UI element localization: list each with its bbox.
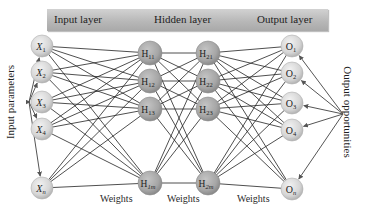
input-node-x2: X2 <box>31 61 53 83</box>
hidden-node-h2m: H2m <box>196 171 220 195</box>
input-layer-label: Input layer <box>54 13 102 25</box>
weight-edge <box>42 183 150 188</box>
input-node-xn: Xn <box>31 177 53 199</box>
output-node-o1: O1 <box>281 35 303 57</box>
input-node-x3: X3 <box>31 91 53 113</box>
weight-edge <box>42 72 150 183</box>
weight-edge <box>42 46 150 81</box>
output-node-o4: O4 <box>281 119 303 141</box>
hidden-layer-label: Hidden layer <box>154 13 211 25</box>
input-parameters-label: Input parameters <box>4 65 16 139</box>
weight-edge <box>42 129 150 183</box>
weight-edge <box>208 46 292 53</box>
output-arrow <box>299 114 343 179</box>
weight-edge <box>42 53 150 129</box>
weight-edge <box>208 81 292 130</box>
weight-edge <box>208 53 292 130</box>
output-node-o2: O2 <box>281 62 303 84</box>
weight-edge <box>208 81 292 189</box>
hidden-node-h12: H12 <box>138 69 162 93</box>
output-arrow <box>299 56 343 114</box>
weights-label-1: Weights <box>100 193 133 204</box>
output-arrow <box>303 114 343 126</box>
weight-edge <box>42 81 150 188</box>
weight-edge <box>208 130 292 183</box>
hidden-node-h23: H23 <box>196 97 220 121</box>
weight-edge <box>208 73 292 183</box>
weights-label-3: Weights <box>237 193 270 204</box>
weight-edge <box>42 46 150 53</box>
output-node-on: On <box>281 178 303 200</box>
weight-edge <box>42 81 150 102</box>
network-graph: X1X2X3X4XnH11H12H13H1mH21H22H23H2mO1O2O3… <box>0 0 378 216</box>
weight-edges <box>42 46 292 189</box>
hidden-node-h22: H22 <box>196 69 220 93</box>
input-node-x1: X1 <box>31 35 53 57</box>
neuron-nodes: X1X2X3X4XnH11H12H13H1mH21H22H23H2mO1O2O3… <box>31 35 303 200</box>
output-node-o3: O3 <box>281 92 303 114</box>
hidden-node-h11: H11 <box>138 41 162 65</box>
hidden-node-h21: H21 <box>196 41 220 65</box>
output-opportunities-label: Output opportunities <box>342 66 354 157</box>
weight-edge <box>42 109 150 129</box>
weights-label-2: Weights <box>167 193 200 204</box>
input-node-x4: X4 <box>31 118 53 140</box>
output-layer-label: Output layer <box>257 13 312 25</box>
weight-edge <box>208 53 292 73</box>
weight-edge <box>208 46 292 81</box>
neural-network-diagram: X1X2X3X4XnH11H12H13H1mH21H22H23H2mO1O2O3… <box>0 0 378 216</box>
weight-edge <box>208 109 292 130</box>
weight-edge <box>208 183 292 189</box>
hidden-node-h1m: H1m <box>138 171 162 195</box>
hidden-node-h13: H13 <box>138 97 162 121</box>
weight-edge <box>208 73 292 81</box>
